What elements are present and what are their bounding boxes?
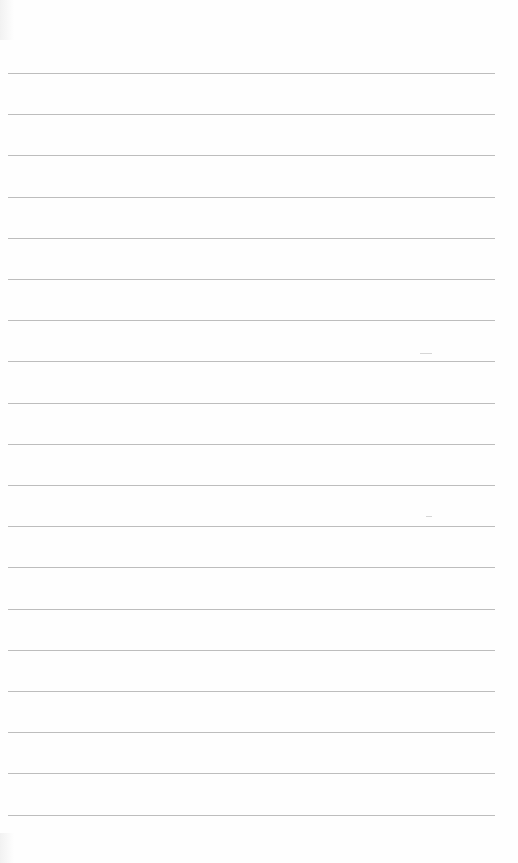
- page-edge-shadow-top: [0, 0, 14, 40]
- page-edge-shadow-bottom: [0, 833, 14, 863]
- ruled-line: [8, 485, 495, 486]
- lined-paper-page: [0, 0, 518, 863]
- ruled-line: [8, 567, 495, 568]
- ruled-line: [8, 650, 495, 651]
- ruled-line: [8, 114, 495, 115]
- ruled-line: [8, 73, 495, 74]
- faint-mark: [420, 353, 432, 354]
- ruled-line: [8, 815, 495, 816]
- ruled-line: [8, 403, 495, 404]
- ruled-line: [8, 732, 495, 733]
- ruled-line: [8, 238, 495, 239]
- faint-mark: [426, 516, 432, 517]
- ruled-line: [8, 526, 495, 527]
- ruled-line: [8, 197, 495, 198]
- ruled-line: [8, 155, 495, 156]
- ruled-line: [8, 361, 495, 362]
- ruled-line: [8, 279, 495, 280]
- ruled-line: [8, 444, 495, 445]
- ruled-line: [8, 691, 495, 692]
- ruled-line: [8, 773, 495, 774]
- ruled-line: [8, 320, 495, 321]
- ruled-line: [8, 609, 495, 610]
